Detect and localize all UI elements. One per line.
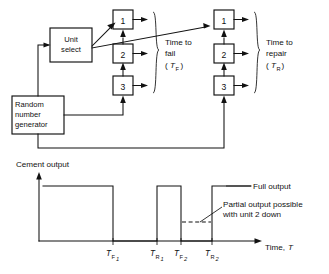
fail-unit-column: 1 2 3 (113, 10, 133, 95)
random-generator-label-line1: Random (15, 100, 44, 109)
generator-to-fail-link (64, 96, 126, 116)
arrow-up-icon (120, 96, 126, 104)
arrow-right-icon (242, 17, 249, 22)
chart-x-axis-label: Time, T (265, 243, 294, 252)
repair-bracket: Time to repair ( T R ) (254, 12, 293, 93)
arrow-up-icon (120, 30, 126, 38)
unit-select-label-line1: Unit (64, 35, 78, 44)
arrow-up-icon (221, 96, 227, 104)
arrow-right-icon (242, 83, 249, 88)
repair-unit-label-3: 3 (222, 82, 227, 92)
x-axis-label-prefix: Time, (265, 243, 285, 252)
chart-tick-label-1: T R 1 (150, 249, 164, 262)
repair-column-outputs (234, 17, 249, 88)
arrow-right-icon (141, 17, 148, 22)
arrow-right-icon (242, 51, 249, 56)
tick-1-sub-index: 1 (161, 256, 164, 262)
tick-2-sub-main: F (180, 254, 184, 260)
fail-unit-label-2: 2 (121, 50, 126, 60)
x-axis-label-var: T (288, 243, 294, 252)
partial-output-label-line1: Partial output possible (223, 200, 303, 209)
fail-symbol-close: ) (181, 61, 184, 70)
fail-bracket-symbol: ( T F ) (165, 61, 184, 72)
fail-unit-label-1: 1 (121, 16, 126, 26)
chart-tick-label-0: T F 1 (106, 249, 119, 262)
tick-0-sub-index: 1 (116, 256, 119, 262)
arrow-up-icon (221, 30, 227, 38)
repair-bracket-symbol: ( T R ) (266, 61, 285, 72)
repair-unit-label-2: 2 (222, 50, 227, 60)
unit-select-label-line2: select (61, 45, 82, 54)
annotation-partial-output: Partial output possible with unit 2 down (200, 200, 303, 222)
repair-unit-label-1: 1 (222, 16, 227, 26)
repair-bracket-line1: Time to (266, 38, 293, 47)
repair-symbol-close: ) (282, 61, 285, 70)
random-generator-label-line2: number (15, 110, 41, 119)
unit-select-block: Unit select (50, 28, 92, 62)
fail-symbol-sub: F (176, 66, 180, 72)
random-number-generator-block: Random number generator (12, 96, 64, 134)
simulation-diagram-figure: Unit select Random number generator 1 2 … (0, 0, 329, 274)
feedback-to-unit-select-link (38, 42, 51, 96)
generator-to-repair-link (38, 96, 227, 149)
tick-1-sub-main: R (156, 254, 160, 260)
tick-3-sub-main: R (211, 254, 215, 260)
chart-tick-label-3: T R 2 (205, 249, 220, 262)
arrow-up-icon (120, 63, 126, 71)
figure-root: Unit select Random number generator 1 2 … (0, 0, 329, 274)
tick-2-sub-index: 2 (183, 256, 188, 262)
axis-arrow-right-icon (255, 238, 263, 244)
repair-symbol-open: ( (266, 61, 269, 70)
unit-select-to-fail-links (92, 23, 211, 49)
fail-bracket: Time to fail ( T F ) (153, 12, 192, 93)
full-output-label: Full output (253, 182, 292, 191)
chart-output-trace (43, 186, 251, 241)
tick-3-sub-index: 2 (215, 256, 220, 262)
fail-unit-label-3: 3 (121, 82, 126, 92)
arrow-up-icon (221, 63, 227, 71)
fail-column-outputs (133, 17, 148, 88)
repair-unit-column: 1 2 3 (214, 10, 234, 95)
repair-bracket-line2: repair (266, 49, 287, 58)
partial-output-label-line2: with unit 2 down (222, 210, 281, 219)
fail-bracket-line1: Time to (165, 38, 192, 47)
chart-tick-label-2: T F 2 (174, 249, 188, 262)
fail-bracket-line2: fail (165, 49, 176, 58)
axis-arrow-up-icon (36, 172, 42, 180)
tick-0-sub-main: F (112, 254, 116, 260)
arrow-diagonal-icon (203, 23, 210, 29)
arrow-right-icon (141, 83, 148, 88)
chart-y-axis-label: Cement output (16, 160, 70, 169)
arrow-right-icon (141, 51, 148, 56)
random-generator-label-line3: generator (15, 120, 48, 129)
fail-symbol-open: ( (165, 61, 168, 70)
repair-symbol-sub: R (277, 66, 281, 72)
